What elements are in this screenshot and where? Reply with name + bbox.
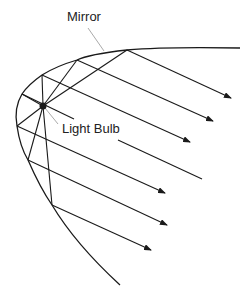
parabolic-mirror-diagram	[0, 0, 242, 293]
incident-ray	[43, 50, 127, 106]
light-bulb-icon	[40, 103, 47, 110]
reflected-ray-partial	[118, 140, 202, 179]
incident-ray	[43, 106, 52, 205]
mirror-leader-line	[88, 28, 104, 51]
light-bulb-label: Light Bulb	[62, 121, 120, 136]
mirror-label: Mirror	[67, 9, 101, 24]
incident-ray	[28, 106, 43, 160]
reflected-ray	[28, 160, 167, 225]
incident-ray	[17, 106, 43, 126]
reflected-ray	[127, 50, 231, 98]
reflected-ray	[77, 60, 213, 121]
reflected-rays	[17, 50, 231, 250]
incident-ray	[42, 75, 43, 106]
reflected-ray-partial	[22, 94, 74, 119]
